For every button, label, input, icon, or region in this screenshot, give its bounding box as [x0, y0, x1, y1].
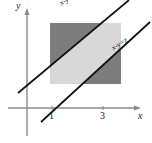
x-axis-label: x	[138, 110, 142, 121]
light-band-between-lines	[18, 0, 150, 122]
x-tick-label-3: 3	[100, 110, 105, 121]
y-axis-label: y	[16, 0, 20, 11]
figure-canvas: x-y=-z x-y=z 1 3 x y	[0, 0, 152, 143]
y-axis-arrow-icon	[24, 8, 29, 15]
diagram-graphics	[0, 0, 152, 143]
x-tick-label-1: 1	[49, 110, 54, 121]
